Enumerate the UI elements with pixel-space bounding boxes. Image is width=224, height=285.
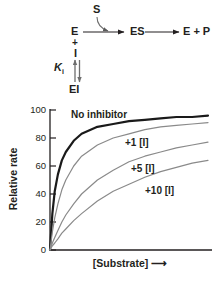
y-tick-label-20: 20 bbox=[18, 216, 46, 227]
y-tick-label-80: 80 bbox=[18, 132, 46, 143]
label-enzyme-inhibitor: EI bbox=[69, 84, 79, 95]
kinetics-plot: Relative rate [Substrate] ⟶ 100 80 60 40… bbox=[0, 95, 224, 285]
label-enzyme-substrate: ES bbox=[130, 26, 145, 37]
curve-3 bbox=[50, 160, 208, 250]
ki-subscript: i bbox=[62, 68, 64, 75]
label-inhibitor: I bbox=[74, 48, 77, 59]
curve-label-plus5: +5 [I] bbox=[131, 163, 155, 174]
label-products: E + P bbox=[183, 26, 210, 37]
reaction-scheme-arrows: ES --> E + P --> bbox=[0, 0, 224, 100]
arrow-substrate-in bbox=[97, 17, 108, 31]
curve-label-plus10: +10 [I] bbox=[145, 185, 174, 196]
ki-symbol: K bbox=[54, 61, 62, 73]
y-tick-label-0: 0 bbox=[18, 244, 46, 255]
y-tick-label-100: 100 bbox=[18, 104, 46, 115]
label-ki-constant: Ki bbox=[54, 62, 64, 77]
curve-label-no-inhibitor: No inhibitor bbox=[71, 109, 127, 120]
reaction-scheme: ES --> E + P --> S E + I EI ES E + P Ki bbox=[0, 0, 224, 100]
label-substrate: S bbox=[93, 4, 100, 15]
label-enzyme: E bbox=[71, 26, 78, 37]
curve-group bbox=[50, 116, 208, 250]
curve-label-plus1: +1 [I] bbox=[125, 137, 149, 148]
curve-2 bbox=[50, 142, 208, 250]
y-tick-label-60: 60 bbox=[18, 160, 46, 171]
y-tick-label-40: 40 bbox=[18, 188, 46, 199]
curve-0 bbox=[50, 116, 208, 250]
